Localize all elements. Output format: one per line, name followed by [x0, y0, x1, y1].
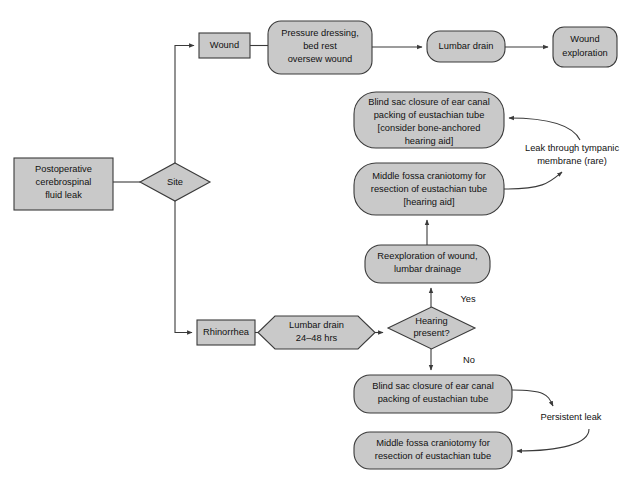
connector-fossa-top-to-leak-label [504, 172, 562, 189]
node-label-line: hearing aid] [405, 136, 454, 146]
connector-leak-label-to-blind-sac-top [509, 118, 580, 140]
node-label-line: oversew wound [288, 54, 353, 64]
flowchart-svg: Postoperative cerebrospinal fluid leak S… [0, 0, 637, 485]
node-rhinorrhea[interactable]: Rhinorrhea [197, 320, 255, 345]
node-label-line: Hearing [415, 316, 448, 326]
node-label-line: lumbar drainage [394, 264, 461, 274]
edge-label-yes: Yes [460, 294, 476, 304]
node-label-line: cerebrospinal [36, 177, 92, 187]
node-lumbar-drain-top[interactable]: Lumbar drain [427, 31, 505, 62]
connector-site-to-rhinorrhea [175, 201, 192, 333]
node-site-decision[interactable]: Site [140, 163, 210, 201]
node-label-line: [consider bone-anchored [378, 123, 481, 133]
node-hearing-present-decision[interactable]: Hearing present? [388, 307, 475, 349]
node-label-line: Blind sac closure of ear canal [372, 381, 493, 391]
node-label-line: packing of eustachian tube [374, 110, 485, 120]
edge-label-no: No [463, 355, 475, 365]
node-label-site: Site [167, 177, 183, 187]
node-label-line: Reexploration of wound, [377, 251, 477, 261]
node-middle-fossa-craniotomy-bottom[interactable]: Middle fossa craniotomy for resection of… [354, 432, 512, 469]
node-label-line: Wound [570, 34, 599, 44]
edge-label-leak-tympanic-line1: Leak through tympanic [525, 143, 619, 153]
edge-label-persistent-leak: Persistent leak [541, 412, 602, 422]
node-label-line: exploration [562, 48, 607, 58]
node-blind-sac-closure-top[interactable]: Blind sac closure of ear canal packing o… [354, 92, 504, 148]
node-label-wound: Wound [210, 40, 239, 50]
node-label-line: 24–48 hrs [296, 333, 338, 343]
node-reexploration-of-wound[interactable]: Reexploration of wound, lumbar drainage [365, 245, 490, 283]
node-label-line: resection of eustachian tube [371, 184, 487, 194]
node-label-line: fluid leak [45, 190, 82, 200]
connector-persistent-leak-to-fossa-bottom [517, 429, 589, 451]
node-lumbar-drain-hexagon[interactable]: Lumbar drain 24–48 hrs [258, 316, 375, 349]
node-label-line: Blind sac closure of ear canal [368, 97, 489, 107]
connectors [113, 46, 589, 452]
node-label-line: present? [413, 328, 449, 338]
connector-site-to-wound [175, 46, 194, 164]
edge-label-leak-tympanic-line2: membrane (rare) [537, 156, 607, 166]
node-wound-exploration[interactable]: Wound exploration [553, 27, 617, 67]
node-pressure-dressing[interactable]: Pressure dressing, bed rest oversew woun… [268, 21, 372, 74]
node-label-rhinorrhea: Rhinorrhea [203, 327, 250, 337]
node-wound[interactable]: Wound [199, 33, 250, 58]
node-middle-fossa-craniotomy-top[interactable]: Middle fossa craniotomy for resection of… [354, 163, 504, 215]
node-label-line: Pressure dressing, [281, 28, 359, 38]
node-label-line: Lumbar drain [289, 320, 344, 330]
node-label-line: bed rest [303, 41, 337, 51]
node-label-line: Postoperative [35, 164, 92, 174]
node-postoperative-csf-leak[interactable]: Postoperative cerebrospinal fluid leak [14, 158, 113, 210]
node-label-line: [hearing aid] [403, 197, 454, 207]
node-label-lumbar-drain: Lumbar drain [439, 41, 494, 51]
node-label-line: Middle fossa craniotomy for [376, 438, 490, 448]
connector-blind-sac-bottom-to-persistent-leak [512, 390, 553, 406]
node-label-line: resection of eustachian tube [375, 451, 491, 461]
node-blind-sac-closure-bottom[interactable]: Blind sac closure of ear canal packing o… [354, 375, 512, 413]
node-label-line: Middle fossa craniotomy for [372, 171, 486, 181]
flowchart-canvas: Postoperative cerebrospinal fluid leak S… [0, 0, 637, 485]
node-label-line: packing of eustachian tube [378, 394, 489, 404]
